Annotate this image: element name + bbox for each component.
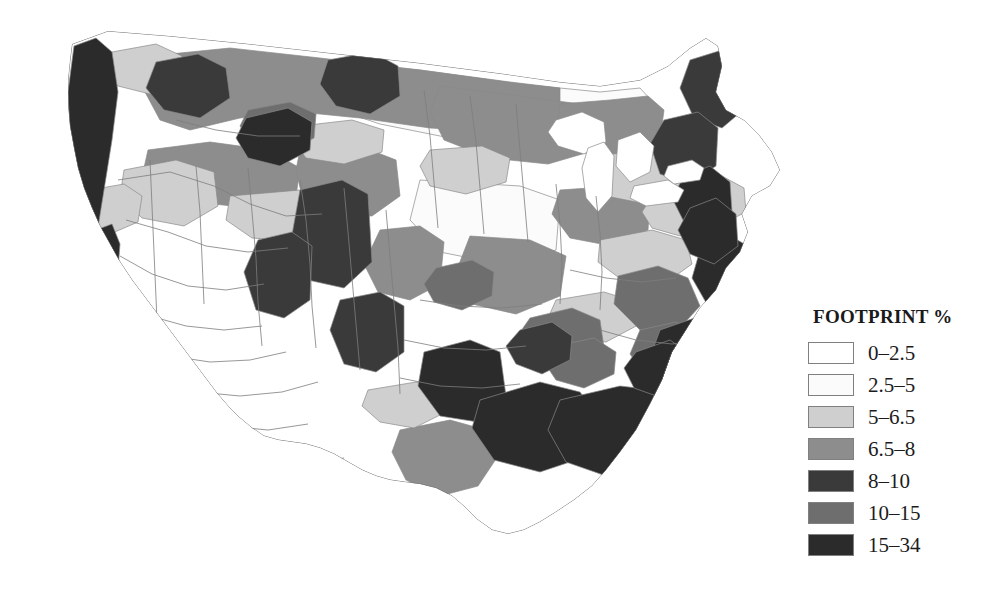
legend-swatch-2.5-5 [808,374,854,396]
legend-swatch-0-2.5 [808,342,854,364]
legend-label-8-10: 8–10 [868,469,910,494]
legend-row: 0–2.5 [808,337,986,369]
map-legend: FOOTPRINT % 0–2.5 2.5–5 5–6.5 6.5–8 8–10… [808,306,986,561]
region-gulf-coastal-plain [548,386,704,478]
legend-label-2.5-5: 2.5–5 [868,373,915,398]
legend-label-10-15: 10–15 [868,501,921,526]
legend-label-0-2.5: 0–2.5 [868,341,915,366]
legend-swatch-10-15 [808,502,854,524]
legend-swatch-8-10 [808,470,854,492]
legend-row: 5–6.5 [808,401,986,433]
legend-row: 6.5–8 [808,433,986,465]
us-choropleth-map [0,0,800,591]
legend-swatch-6.5-8 [808,438,854,460]
legend-row: 10–15 [808,497,986,529]
footprint-map-figure: FOOTPRINT % 0–2.5 2.5–5 5–6.5 6.5–8 8–10… [0,0,994,591]
legend-label-5-6.5: 5–6.5 [868,405,915,430]
region-california-coast-range [88,224,120,366]
legend-title: FOOTPRINT % [813,306,986,328]
legend-row: 15–34 [808,529,986,561]
legend-label-15-34: 15–34 [868,533,921,558]
legend-swatch-15-34 [808,534,854,556]
region-florida-peninsula [690,420,742,528]
map-regions [0,0,800,591]
map-area [0,0,800,591]
legend-label-6.5-8: 6.5–8 [868,437,915,462]
legend-row: 2.5–5 [808,369,986,401]
legend-swatch-5-6.5 [808,406,854,428]
legend-row: 8–10 [808,465,986,497]
